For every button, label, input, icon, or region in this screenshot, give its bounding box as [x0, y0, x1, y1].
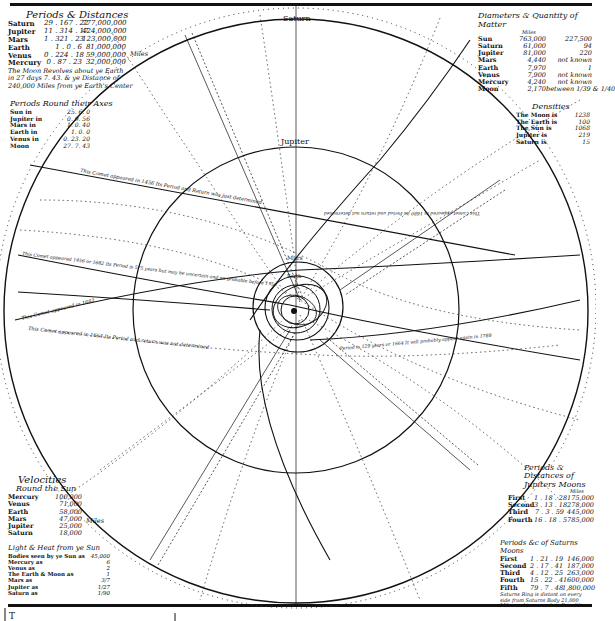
- table-row: Saturn is15: [516, 139, 596, 146]
- periods-distances-panel: Periods & Distances Saturn29 . 167 . 227…: [8, 9, 158, 90]
- cell-body: Moon: [10, 143, 54, 150]
- cell-distance: 785,000: [564, 517, 594, 524]
- diameters-title: Diameters & Quantity of Matter: [478, 12, 596, 30]
- saturn-ring-note-line: Miles and is as much in Breadth: [500, 603, 596, 609]
- periods-axes-panel: Periods Round their Axes Sun in25. 6. 0J…: [10, 100, 120, 149]
- table-row: Mars1 . 321 . 23123,000,000: [8, 36, 158, 44]
- saturn-moons-title: Periods &c of Saturns Moons: [500, 540, 596, 556]
- cell-moon: Fourth: [508, 517, 534, 524]
- cell-value: 1/90: [88, 590, 110, 596]
- dotted-path-8: [200, 320, 300, 600]
- densities-table: The Moon is1238The Earth is100The Sun is…: [516, 112, 596, 146]
- comet-caption-5: Period is 129 years or 1664 It will prob…: [339, 333, 492, 352]
- jupiter-moons-title: Periods & Distances of Jupiters Moons: [508, 464, 596, 489]
- densities-panel: Densities The Moon is1238The Earth is100…: [516, 103, 596, 146]
- dotted-path-5: [260, 15, 300, 305]
- saturn-ring-note: Saturns Ring is distant on every side fr…: [500, 592, 596, 609]
- light-heat-title: Light & Heat from ye Sun: [8, 545, 118, 553]
- band-ne-1: [340, 180, 500, 290]
- dotted-path-6: [300, 18, 440, 300]
- saturn-moons-panel: Periods &c of Saturns Moons First1 . 21 …: [500, 540, 596, 609]
- jupiter-moons-table: First1 . 18 . 28175,000Second3 . 13 . 18…: [508, 495, 596, 524]
- table-row: Moon27. 7. 43: [10, 143, 120, 150]
- orbit-label-mars: Mars: [287, 254, 303, 261]
- dotted-path-9: [300, 315, 420, 600]
- saturn-moons-table: First1 . 21 . 19146,000Second2 . 17 . 41…: [500, 556, 596, 592]
- cell-value: 15: [568, 139, 590, 146]
- table-row: Saturn as1/90: [8, 590, 118, 596]
- cell-distance: 32,000,000: [82, 59, 126, 67]
- comet-path-steep-ne: [250, 40, 470, 320]
- velocities-panel: Velocities Round the Sun Mercury100,000V…: [8, 474, 118, 538]
- cell-body: Moon: [478, 86, 512, 93]
- comet-path-1680: [310, 300, 580, 340]
- table-row: Moon2,170between 1/39 & 1/40: [478, 86, 596, 93]
- cell-value: 18,000: [48, 530, 82, 537]
- cell-diameter: 2,170: [512, 86, 546, 93]
- moon-note: The Moon Revolves about ye Earth in 27 d…: [8, 68, 158, 90]
- orbit-label-jupiter: Jupiter: [280, 137, 309, 146]
- cell-body: Saturn as: [8, 590, 88, 596]
- comet-caption-4: This Comet appeared in 1664 Its Period a…: [28, 325, 210, 351]
- cell-value: 27. 7. 43: [54, 143, 90, 150]
- band-nw-1: [185, 35, 300, 300]
- cell-planet: Saturn: [8, 530, 48, 537]
- comet-caption-2: This Comet appeared 1456 or 1682 Its Per…: [22, 251, 277, 288]
- dotted-path-12: [300, 160, 540, 300]
- comet-caption-3: This Comet appeared in 1682: [21, 297, 96, 322]
- diameters-panel: Diameters & Quantity of Matter Miles Sun…: [478, 12, 596, 94]
- velocities-table: Mercury100,000Venus71,000Earth58,000Mars…: [8, 494, 118, 538]
- cell-period: 16 . 18 . 5: [534, 517, 564, 524]
- periods-axes-table: Sun in25. 6. 0Jupiter in0. 9. 56Mars in1…: [10, 109, 120, 149]
- comet-caption-1: This Comet appeared in 1456 Its Period a…: [80, 167, 263, 206]
- periods-distances-table: Saturn29 . 167 . 22777,000,000Jupiter11 …: [8, 20, 158, 67]
- band-sw-1: [150, 330, 290, 560]
- orbit-label-earth: Earth: [287, 273, 302, 279]
- orbit-label-saturn: Saturn: [283, 14, 311, 23]
- light-heat-table: Bodies seen by ye Sun as45,000Mercury as…: [8, 553, 118, 596]
- band-se-2: [325, 336, 478, 465]
- table-row: Saturn18,000: [8, 530, 118, 537]
- band-sw-2: [158, 333, 295, 565]
- cell-matter: not known: [546, 57, 592, 64]
- table-row: Fourth16 . 18 . 5785,000: [508, 517, 596, 524]
- jupiter-moons-panel: Periods & Distances of Jupiters Moons Mi…: [508, 464, 596, 524]
- bottom-initial-letter: T: [9, 611, 15, 621]
- periods-distances-unit: Miles: [130, 51, 148, 58]
- velocities-unit: Miles: [86, 518, 104, 525]
- sun: [291, 308, 297, 314]
- moon-note-line: 240,000 Miles from ye Earth's Center: [8, 83, 158, 90]
- diameters-table: Sun763,000227,500Saturn61,00094Jupiter81…: [478, 36, 596, 94]
- cell-matter: between 1/39 & 1/40: [546, 86, 592, 93]
- comet-caption-6: This Comet appeared in 1680 its Period a…: [324, 211, 480, 216]
- light-heat-panel: Light & Heat from ye Sun Bodies seen by …: [8, 545, 118, 596]
- band-ne-2: [345, 190, 505, 295]
- comet-path-steep-s: [259, 330, 330, 560]
- top-border-rule: [10, 3, 592, 6]
- comet-path-1682-a: [18, 255, 580, 360]
- cell-period: 0 . 87 . 23: [44, 59, 82, 67]
- comet-path-1456: [30, 165, 515, 255]
- cell-planet: Mercury: [8, 59, 44, 67]
- table-row: Mercury0 . 87 . 2332,000,000: [8, 59, 158, 67]
- cell-body: Saturn is: [516, 139, 568, 146]
